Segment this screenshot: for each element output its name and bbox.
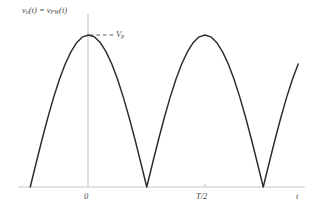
rectified-sine-curve — [30, 35, 298, 187]
y-axis-label-subscript-fw: FW — [51, 9, 60, 15]
peak-label-subscript: p — [121, 33, 124, 39]
peak-amplitude-label: Vp — [116, 30, 124, 40]
y-axis-label-mid: (t) = v — [29, 5, 51, 15]
waveform-plot — [0, 0, 314, 212]
figure-container: vo(t) = vFW(t) Vp 0 T/2 t — [0, 0, 314, 212]
x-tick-label-t-half: T/2 — [196, 192, 207, 201]
x-axis-label: t — [296, 192, 298, 201]
x-tick-label-t-half-rest: /2 — [201, 191, 208, 201]
x-tick-label-zero: 0 — [84, 192, 88, 201]
y-axis-label: vo(t) = vFW(t) — [22, 6, 67, 16]
y-axis-label-suffix: (t) — [59, 5, 67, 15]
